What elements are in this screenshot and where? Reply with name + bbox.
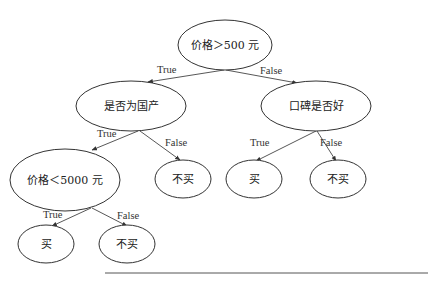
leaf-label: 不买	[327, 173, 349, 186]
node-price-true-leaf: 买	[18, 225, 74, 263]
leaf-label: 买	[249, 173, 260, 186]
leaf-label: 不买	[172, 173, 194, 186]
edge-label-reputation-false: False	[320, 137, 343, 148]
node-domestic: 是否为国产	[76, 81, 186, 131]
node-price-false-leaf: 不买	[99, 225, 155, 263]
edge-label-root-true: True	[157, 64, 177, 75]
node-root-label: 价格＞500 元	[191, 38, 260, 52]
leaf-label: 买	[41, 238, 52, 251]
node-domestic-false-leaf: 不买	[155, 160, 211, 198]
edge-label-reputation-true: True	[250, 137, 270, 148]
edge-label-price-false: False	[117, 210, 140, 221]
node-price-lt: 价格＜5000 元	[10, 149, 120, 211]
node-reputation-label: 口碑是否好	[289, 99, 344, 113]
node-reputation-false-leaf: 不买	[310, 160, 366, 198]
decision-tree-diagram: True False True False True False True Fa…	[0, 0, 432, 290]
edge-label-domestic-false: False	[165, 137, 188, 148]
node-price-lt-label: 价格＜5000 元	[27, 173, 103, 187]
node-root: 价格＞500 元	[178, 20, 272, 70]
node-domestic-label: 是否为国产	[104, 99, 159, 113]
leaf-label: 不买	[116, 238, 138, 251]
edge-label-root-false: False	[260, 65, 283, 76]
node-reputation-true-leaf: 买	[226, 160, 282, 198]
node-reputation: 口碑是否好	[261, 81, 371, 131]
